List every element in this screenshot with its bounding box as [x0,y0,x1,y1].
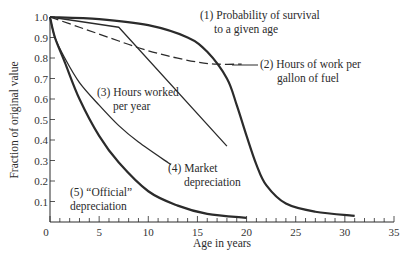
y-tick-label: 0.4 [34,134,48,146]
y-tick-label: 0.5 [34,114,48,126]
hours-worked-curve [50,17,227,146]
annotation-fuel: (2) Hours of work per gallon of fuel [232,58,361,85]
annotation-market-line1: (4) Market [168,162,218,175]
annotation-official-line2: depreciation [70,200,127,213]
annotation-market-depreciation: (4) Market depreciation [168,162,241,189]
x-tick-label: 35 [389,226,401,238]
y-tick-label: 0.7 [34,73,48,85]
annotation-official-line1: (5) “Official” [70,186,132,199]
x-tick-label: 5 [96,226,102,238]
y-tick-label: 0.8 [34,52,48,64]
y-tick-label: 0.9 [34,32,48,44]
y-tick-label: 0.6 [34,93,48,105]
annotation-hours-worked-line1: (3) Hours worked [97,86,179,99]
y-tick-label: 0.2 [34,175,48,187]
x-tick-label: 30 [339,226,351,238]
line-chart: 051015202530350.10.20.30.40.50.60.70.80.… [0,0,414,262]
annotation-official-depreciation: (5) “Official” depreciation [70,186,132,213]
annotation-survival-line2: to a given age [214,23,278,36]
y-tick-label: 0.3 [34,155,48,167]
annotation-hours-worked-line2: per year [113,100,151,113]
annotation-survival: (1) Probability of survival to a given a… [200,9,320,36]
annotation-survival-line1: (1) Probability of survival [200,9,320,22]
y-tick-label: 0.1 [34,196,48,208]
annotation-market-line2: depreciation [184,176,241,189]
y-tick-label: 1.0 [34,11,48,23]
x-axis-title: Age in years [193,237,252,250]
x-tick-label: 10 [143,226,155,238]
x-tick-label: 25 [290,226,302,238]
x-tick-label: 0 [43,226,49,238]
annotation-hours-worked: (3) Hours worked per year [97,86,179,113]
annotation-fuel-line1: (2) Hours of work per [260,58,361,71]
y-axis-title: Fraction of original value [8,61,21,178]
annotation-fuel-line2: gallon of fuel [277,72,339,85]
